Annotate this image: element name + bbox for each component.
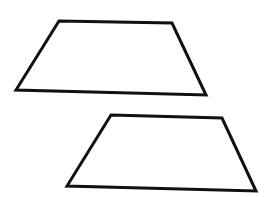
- trapezoid-top: [16, 21, 206, 95]
- diagram-canvas: [0, 0, 269, 197]
- trapezoid-bottom: [67, 115, 256, 191]
